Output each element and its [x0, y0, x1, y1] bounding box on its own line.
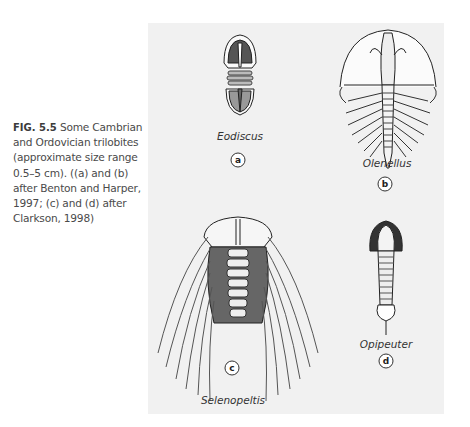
panel-c-label: c — [225, 361, 240, 376]
panel-d-name: Opipeuter — [360, 338, 413, 350]
figure-number: FIG. 5.5 — [13, 122, 57, 133]
figure-caption: FIG. 5.5 Some Cambrian and Ordovician tr… — [13, 120, 143, 226]
panel-c-name: Selenopeltis — [201, 394, 265, 406]
panel-a-label: a — [231, 153, 246, 168]
panel-b-name: Olenellus — [363, 157, 412, 169]
eodiscus-illustration — [224, 35, 256, 115]
figure-panel: Eodiscus a Olenellus b Selenopeltis c Op… — [148, 23, 444, 414]
selenopeltis-illustration — [158, 217, 318, 401]
panel-b-label: b — [378, 177, 393, 192]
panel-d-label: d — [379, 354, 394, 369]
trilobite-illustrations — [148, 23, 444, 414]
caption-text: Some Cambrian and Ordovician trilobites … — [13, 121, 142, 224]
panel-a-name: Eodiscus — [217, 130, 263, 142]
opipeuter-illustration — [370, 221, 402, 335]
olenellus-illustration — [340, 30, 437, 168]
